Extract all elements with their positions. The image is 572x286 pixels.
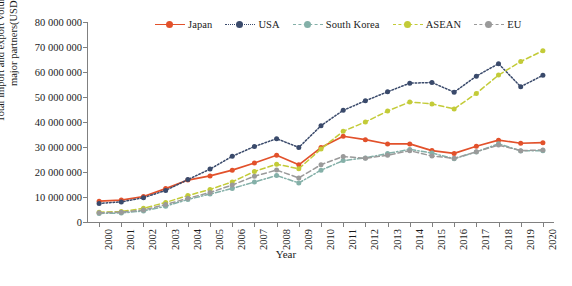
data-point [518, 148, 523, 153]
data-point [474, 74, 479, 79]
y-tick [83, 222, 88, 223]
data-point [474, 149, 479, 154]
x-tick [521, 222, 522, 227]
x-tick [254, 222, 255, 227]
data-point [385, 89, 390, 94]
x-tick [388, 222, 389, 227]
data-point [119, 199, 124, 204]
data-point [319, 168, 324, 173]
data-point [319, 123, 324, 128]
data-point [208, 167, 213, 172]
x-tick-label: 2009 [303, 229, 314, 250]
x-tick [343, 222, 344, 227]
y-tick-label: 30 000 000 [35, 142, 82, 153]
data-point [496, 61, 501, 66]
x-tick-label: 2012 [369, 229, 380, 250]
x-tick-label: 2011 [347, 229, 358, 250]
data-point [429, 101, 434, 106]
data-point [319, 146, 324, 151]
x-tick-label: 2005 [214, 229, 225, 250]
data-point [496, 73, 501, 78]
x-tick [277, 222, 278, 227]
data-point [540, 73, 545, 78]
line-chart: JapanUSASouth KoreaASEANEU 010 000 00020… [0, 0, 572, 286]
x-tick [321, 222, 322, 227]
data-point [208, 173, 213, 178]
x-tick-label: 2017 [480, 229, 491, 250]
x-tick-label: 2001 [125, 229, 136, 250]
data-point [518, 141, 523, 146]
data-point [185, 196, 190, 201]
data-point [163, 188, 168, 193]
data-point [429, 80, 434, 85]
data-point [518, 59, 523, 64]
data-point [385, 141, 390, 146]
x-tick-label: 2016 [458, 229, 469, 250]
data-point [363, 119, 368, 124]
x-tick-label: 2010 [325, 229, 336, 250]
data-point [341, 108, 346, 113]
x-tick-label: 2000 [103, 229, 114, 250]
data-point [341, 134, 346, 139]
x-tick-label: 2004 [192, 229, 203, 250]
x-tick-label: 2018 [503, 229, 514, 250]
x-tick [232, 222, 233, 227]
data-point [252, 180, 257, 185]
x-tick [143, 222, 144, 227]
data-point [252, 174, 257, 179]
data-point [452, 151, 457, 156]
data-point [496, 143, 501, 148]
series-eu [97, 143, 546, 216]
data-point [274, 162, 279, 167]
data-point [363, 98, 368, 103]
x-tick [432, 222, 433, 227]
x-tick [210, 222, 211, 227]
series-line [99, 64, 543, 204]
y-tick-label: 10 000 000 [35, 192, 82, 203]
data-point [474, 91, 479, 96]
data-point [296, 180, 301, 185]
data-point [296, 166, 301, 171]
data-point [163, 202, 168, 207]
data-point [341, 129, 346, 134]
data-point [274, 173, 279, 178]
y-tick-label: 40 000 000 [35, 117, 82, 128]
data-point [274, 136, 279, 141]
x-tick [476, 222, 477, 227]
data-point [363, 137, 368, 142]
data-point [296, 175, 301, 180]
data-point [407, 141, 412, 146]
x-tick [99, 222, 100, 227]
x-axis-title: Year [0, 248, 572, 260]
data-point [452, 106, 457, 111]
data-point [274, 153, 279, 158]
data-point [230, 168, 235, 173]
data-point [185, 177, 190, 182]
data-point [341, 154, 346, 159]
data-point [452, 90, 457, 95]
data-point [385, 109, 390, 114]
x-tick-label: 2013 [392, 229, 403, 250]
x-tick-label: 2006 [236, 229, 247, 250]
x-tick-label: 2020 [547, 229, 558, 250]
x-tick-label: 2008 [281, 229, 292, 250]
data-point [518, 84, 523, 89]
y-tick-label: 60 000 000 [35, 67, 82, 78]
data-point [252, 144, 257, 149]
data-point [252, 161, 257, 166]
x-tick-label: 2019 [525, 229, 536, 250]
y-tick-label: 50 000 000 [35, 92, 82, 103]
x-tick [299, 222, 300, 227]
data-point [252, 169, 257, 174]
data-point [474, 144, 479, 149]
y-axis-title: Total import and export volume of China … [0, 0, 20, 130]
x-tick [365, 222, 366, 227]
data-point [540, 48, 545, 53]
x-tick [121, 222, 122, 227]
y-tick-label: 0 [77, 217, 82, 228]
data-point [119, 210, 124, 215]
x-tick-label: 2003 [170, 229, 181, 250]
x-tick-label: 2015 [436, 229, 447, 250]
data-point [452, 156, 457, 161]
series-layer [88, 22, 554, 222]
